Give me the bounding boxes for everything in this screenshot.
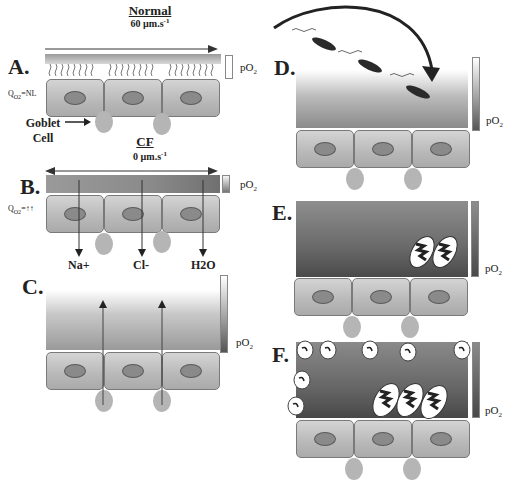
epithelial-cell xyxy=(410,278,468,316)
po2-bar-a xyxy=(225,55,233,79)
panel-label-e: E. xyxy=(272,202,292,224)
nucleus xyxy=(430,142,452,156)
nucleus xyxy=(370,290,392,304)
nucleus xyxy=(312,290,334,304)
po2-label-a: pO2 xyxy=(240,61,257,76)
neutrophil-icon xyxy=(320,341,336,359)
nucleus xyxy=(122,91,144,105)
neutrophil-icon xyxy=(288,397,304,415)
epithelial-cell xyxy=(46,79,104,117)
flow-rate-cf: 0 µm.s-1 xyxy=(110,150,190,162)
goblet-cell xyxy=(404,168,422,190)
mucus-secretion-arrows xyxy=(0,300,260,440)
epithelial-cell xyxy=(296,130,354,168)
nucleus xyxy=(314,142,336,156)
nucleus xyxy=(64,91,86,105)
goblet-cell xyxy=(345,458,363,480)
ion-label-h2o: H2O xyxy=(191,258,216,273)
neutrophil-icon xyxy=(454,341,470,359)
flow-title-cf: CF xyxy=(115,134,175,150)
neutrophil-icon xyxy=(400,343,416,361)
epithelial-cell xyxy=(354,420,412,458)
nucleus xyxy=(372,432,394,446)
goblet-cell xyxy=(403,458,421,480)
epithelial-cell xyxy=(412,420,470,458)
nucleus xyxy=(430,432,452,446)
bacterium-icon xyxy=(338,51,383,76)
epithelial-cell xyxy=(294,278,352,316)
nucleus xyxy=(180,91,202,105)
curved-arrow-icon xyxy=(274,7,432,70)
nucleus xyxy=(372,142,394,156)
nucleus xyxy=(428,290,450,304)
epithelial-cell xyxy=(104,79,162,117)
ion-label-cl: Cl- xyxy=(133,258,149,273)
epithelial-cell xyxy=(412,130,470,168)
neutrophil-icon xyxy=(362,341,378,359)
bacteria-migration xyxy=(260,0,516,110)
po2-label-d: pO2 xyxy=(486,114,503,129)
bacterium-icon xyxy=(390,74,431,102)
ion-absorption-arrows xyxy=(0,175,260,275)
ion-label-na: Na+ xyxy=(68,258,90,273)
neutrophil-icon xyxy=(294,371,310,389)
nucleus xyxy=(314,432,336,446)
qo2-label-a: QO2=NL xyxy=(8,89,36,100)
epithelial-cell xyxy=(352,278,410,316)
epithelial-cell xyxy=(354,130,412,168)
epithelial-cell xyxy=(296,420,354,458)
goblet-pointer-arrow xyxy=(60,114,160,134)
epithelial-cell xyxy=(162,79,220,117)
panel-label-c: C. xyxy=(22,276,43,298)
bacterium-icon xyxy=(292,29,337,54)
flow-arrow-right xyxy=(0,0,260,60)
goblet-cell xyxy=(346,168,364,190)
neutrophil-icon xyxy=(297,341,313,359)
